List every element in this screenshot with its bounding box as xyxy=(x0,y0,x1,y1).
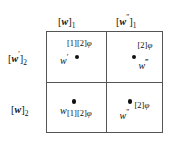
cell-bottom-left: w [1][2]φ xyxy=(47,83,106,133)
phi-symbol: φ xyxy=(144,100,149,110)
cell-top-left-point-label: w′ xyxy=(60,54,68,66)
cell-top-right-point-primes: ‴ xyxy=(145,58,148,67)
row-header-2-subscript: 2 xyxy=(25,109,29,118)
cell-top-left-annotation: [1][2]φ xyxy=(67,39,92,48)
row-header-2: [w]2 xyxy=(11,102,28,117)
cell-top-left-point-marker xyxy=(75,55,79,59)
cell-bottom-right-annotation: [2]φ xyxy=(135,101,150,110)
cell-top-right-point-marker xyxy=(132,55,136,59)
row-header-1: [w′]2 xyxy=(8,51,27,66)
row-header-1-subscript: 2 xyxy=(23,58,27,67)
cell-bottom-left-annotation-index: [1][2] xyxy=(67,108,87,118)
diagram-canvas: [w]1 [w″]1 [w′]2 [w]2 [1][2]φ w′ [2]φ xyxy=(0,0,169,142)
cell-bottom-right-point-label: w″ xyxy=(120,109,130,121)
cell-top-right-annotation-index: [2] xyxy=(138,40,148,50)
cell-top-left: [1][2]φ w′ xyxy=(47,32,106,82)
cell-bottom-left-annotation: [1][2]φ xyxy=(67,109,92,118)
cell-top-left-point-variable: w xyxy=(60,55,67,66)
cell-top-left-point-primes: ′ xyxy=(67,53,68,62)
phi-symbol: φ xyxy=(87,108,92,118)
cell-top-right-point-label: w‴ xyxy=(139,59,149,71)
cell-bottom-right: [2]φ w″ xyxy=(106,83,165,133)
column-header-1: [w]1 xyxy=(58,14,75,29)
cell-bottom-left-point-variable: w xyxy=(60,106,67,117)
grid-box: [1][2]φ w′ [2]φ w‴ w [1][2]φ xyxy=(46,31,163,133)
cell-bottom-left-point-marker xyxy=(72,99,76,103)
column-header-2-subscript: 1 xyxy=(133,21,137,30)
cell-bottom-right-point-marker xyxy=(128,99,132,103)
cell-top-left-annotation-index: [1][2] xyxy=(67,38,87,48)
phi-symbol: φ xyxy=(87,38,92,48)
column-header-1-subscript: 1 xyxy=(72,21,76,30)
cell-top-right: [2]φ w‴ xyxy=(106,32,165,82)
cell-bottom-right-point-primes: ″ xyxy=(126,108,129,117)
cell-bottom-right-annotation-index: [2] xyxy=(135,100,145,110)
column-header-2: [w″]1 xyxy=(116,14,137,29)
cell-top-right-annotation: [2]φ xyxy=(138,41,153,50)
phi-symbol: φ xyxy=(147,40,152,50)
cell-bottom-left-point-label: w xyxy=(60,104,67,116)
